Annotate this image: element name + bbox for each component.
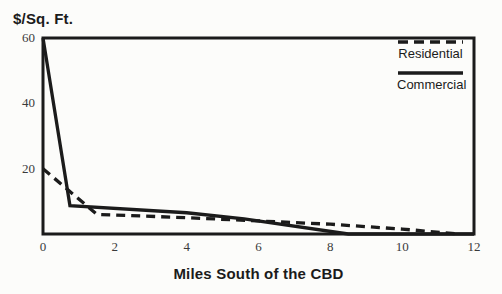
y-tick-label: 60 xyxy=(22,30,35,45)
legend-label-commercial: Commercial xyxy=(397,77,464,92)
y-tick-label: 20 xyxy=(22,161,35,176)
y-tick-label: 40 xyxy=(22,95,35,110)
x-tick-label: 10 xyxy=(396,239,409,254)
residential-line xyxy=(43,169,460,234)
x-tick-label: 12 xyxy=(468,239,481,254)
y-axis-title: $/Sq. Ft. xyxy=(13,10,73,27)
legend-item-residential: Residential xyxy=(397,39,464,61)
x-axis-title: Miles South of the CBD xyxy=(43,265,474,282)
commercial-line-sample xyxy=(397,70,464,76)
x-tick-label: 4 xyxy=(183,239,190,254)
chart-figure: 024681012204060 $/Sq. Ft. Miles South of… xyxy=(0,0,502,294)
residential-line-sample xyxy=(397,39,464,45)
x-tick-label: 0 xyxy=(40,239,47,254)
x-tick-label: 6 xyxy=(255,239,262,254)
legend: ResidentialCommercial xyxy=(397,39,464,101)
legend-label-residential: Residential xyxy=(397,46,464,61)
legend-item-commercial: Commercial xyxy=(397,70,464,92)
x-tick-label: 8 xyxy=(327,239,334,254)
x-tick-label: 2 xyxy=(112,239,119,254)
